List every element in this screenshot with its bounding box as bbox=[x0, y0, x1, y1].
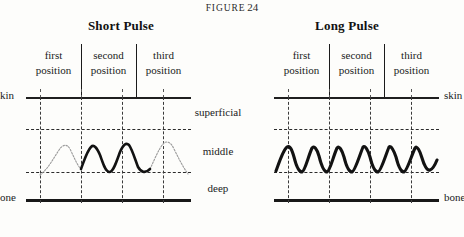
waveform-long-bold bbox=[276, 147, 437, 172]
position-heading-second: second position bbox=[81, 48, 136, 78]
position-headings-long: first position second position third pos… bbox=[274, 48, 439, 82]
position-heading-first-long-line1: first bbox=[293, 49, 311, 61]
depth-label-superficial: superficial bbox=[186, 106, 250, 118]
position-heading-second-long-line2: position bbox=[329, 63, 384, 78]
panel-short-pulse: Short Pulse first position second positi… bbox=[0, 0, 232, 237]
waveform-short-bold bbox=[81, 144, 150, 172]
waveform-short-faint-right bbox=[150, 142, 188, 174]
position-heading-second-line1: second bbox=[93, 49, 124, 61]
edge-label-bone-right: bone bbox=[444, 191, 464, 203]
position-heading-first: first position bbox=[26, 48, 81, 78]
position-heading-third-long: third position bbox=[384, 48, 439, 78]
edge-label-skin-left: kin bbox=[0, 89, 14, 101]
edge-label-bone-left: one bbox=[0, 191, 16, 203]
position-heading-first-long: first position bbox=[274, 48, 329, 78]
position-heading-second-long: second position bbox=[329, 48, 384, 78]
waveform-long-pulse bbox=[274, 97, 439, 203]
position-heading-first-long-line2: position bbox=[274, 63, 329, 78]
position-heading-second-long-line1: second bbox=[341, 49, 372, 61]
position-heading-third-long-line2: position bbox=[384, 63, 439, 78]
figure-page: FIGURE24 Short Pulse first position seco… bbox=[0, 0, 464, 237]
edge-label-skin-right: skin bbox=[444, 89, 462, 101]
position-heading-first-line1: first bbox=[45, 49, 63, 61]
position-heading-third-line1: third bbox=[153, 49, 174, 61]
position-heading-second-line2: position bbox=[81, 63, 136, 78]
waveform-short-pulse bbox=[26, 97, 191, 203]
plot-area-long-pulse: first position second position third pos… bbox=[274, 0, 439, 237]
position-heading-first-line2: position bbox=[26, 63, 81, 78]
waveform-short-faint-left bbox=[40, 145, 81, 175]
position-heading-third-line2: position bbox=[136, 63, 191, 78]
position-separator-2-long bbox=[384, 44, 385, 98]
position-headings-short: first position second position third pos… bbox=[26, 48, 191, 82]
position-separator-2 bbox=[136, 44, 137, 98]
position-heading-third-long-line1: third bbox=[401, 49, 422, 61]
depth-label-middle: middle bbox=[186, 145, 250, 157]
position-heading-third: third position bbox=[136, 48, 191, 78]
plot-area-short-pulse: first position second position third pos… bbox=[26, 0, 191, 237]
depth-label-deep: deep bbox=[186, 182, 250, 194]
panel-long-pulse: Long Pulse first position second positio… bbox=[232, 0, 464, 237]
